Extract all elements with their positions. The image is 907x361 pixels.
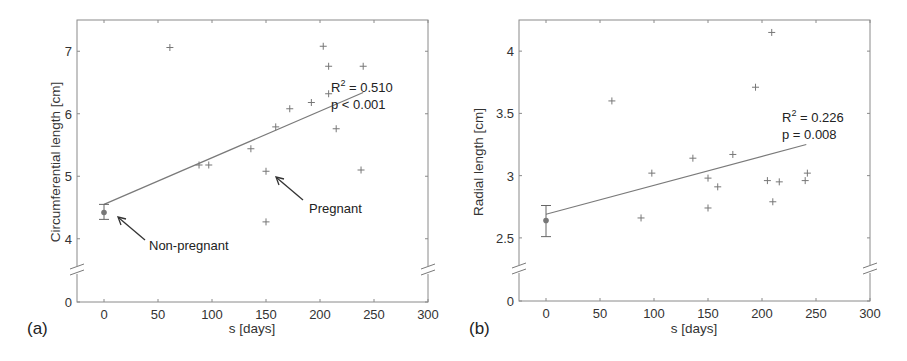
plot-area-a (77, 20, 428, 302)
x-tick-label: 0 (542, 306, 549, 321)
non-pregnant-errorbar-b (541, 206, 551, 237)
x-tick-label: 50 (151, 307, 165, 322)
x-tick-label: 150 (697, 306, 719, 321)
axis-ticks-a (77, 20, 428, 302)
chart-panel-b: 05010015020025030002.533.54 R2 = 0.226 p… (469, 20, 881, 338)
y-tick-label: 0 (507, 294, 514, 309)
axis-break-b (512, 263, 877, 274)
x-axis-label-b: s [days] (671, 321, 718, 336)
y-tick-label: 2.5 (496, 231, 514, 246)
non-pregnant-mean-marker (101, 210, 107, 216)
y-axis-label-a: Circumferential length [cm] (48, 82, 63, 243)
x-tick-label: 250 (805, 306, 827, 321)
y-tick-label: 5 (65, 169, 72, 184)
arrow-pregnant (277, 178, 303, 200)
arrow-nonpregnant (119, 218, 145, 240)
y-tick-label: 6 (65, 107, 72, 122)
plot-area-b (519, 20, 870, 301)
y-axis-label-b: Radial length [cm] (471, 108, 486, 216)
axis-break-a (70, 264, 435, 275)
x-axis-label-a: s [days] (229, 321, 276, 336)
x-tick-label: 100 (201, 307, 223, 322)
y-tick-label: 0 (65, 295, 72, 310)
x-tick-label: 50 (593, 306, 607, 321)
y-tick-label: 4 (507, 44, 514, 59)
x-tick-label: 200 (751, 306, 773, 321)
panel-label-b: (b) (469, 319, 490, 338)
x-tick-label: 150 (255, 307, 277, 322)
y-tick-label: 4 (65, 232, 72, 247)
panel-label-a: (a) (27, 319, 48, 338)
label-nonpregnant: Non-pregnant (149, 238, 229, 253)
tick-labels-b: 05010015020025030002.533.54 (496, 44, 881, 321)
non-pregnant-mean-marker (543, 218, 549, 224)
p-value-annotation-a: p < 0.001 (331, 97, 386, 112)
x-tick-label: 0 (100, 307, 107, 322)
x-tick-label: 200 (309, 307, 331, 322)
x-tick-label: 100 (643, 306, 665, 321)
x-tick-label: 250 (363, 307, 385, 322)
chart-panel-a: 05010015020025030004567 R2 = 0.510 p < 0… (27, 20, 439, 338)
r2-annotation-a: R2 = 0.510 (331, 78, 393, 95)
label-pregnant: Pregnant (309, 201, 362, 216)
figure: 05010015020025030004567 R2 = 0.510 p < 0… (0, 0, 907, 361)
y-tick-label: 3.5 (496, 106, 514, 121)
x-tick-label: 300 (859, 306, 881, 321)
figure-canvas: 05010015020025030004567 R2 = 0.510 p < 0… (0, 0, 907, 361)
r2-annotation-b: R2 = 0.226 (782, 108, 844, 125)
x-tick-label: 300 (417, 307, 439, 322)
regression-line-a (104, 93, 363, 205)
y-tick-label: 7 (65, 44, 72, 59)
non-pregnant-errorbar-a (99, 204, 109, 219)
pregnant-points-b (608, 29, 810, 222)
y-tick-label: 3 (507, 169, 514, 184)
p-value-annotation-b: p = 0.008 (782, 127, 837, 142)
axis-ticks-b (519, 20, 870, 301)
